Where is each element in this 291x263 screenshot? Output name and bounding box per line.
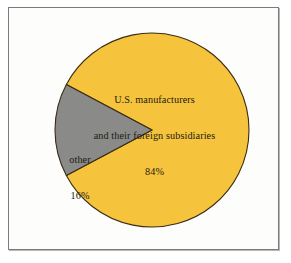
pie-slice-label-other: other 16% [52,130,108,226]
label-line-1: U.S. manufacturers [57,94,252,106]
figure-container: U.S. manufacturers and their foreign sub… [0,0,291,263]
pie-chart: U.S. manufacturers and their foreign sub… [0,0,291,263]
label-percent: 16% [52,190,108,202]
label-line-1: other [52,154,108,166]
